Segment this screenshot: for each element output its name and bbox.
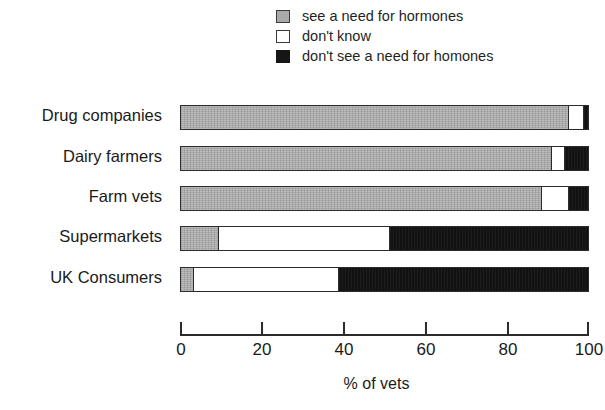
- bar-dairy-farmers: [180, 146, 589, 171]
- category-label-supermarkets: Supermarkets: [0, 227, 162, 245]
- legend-label-dont-see-a-need: don't see a need for homones: [302, 49, 493, 64]
- axis-tick-40: [343, 322, 345, 335]
- bar-supermarkets: [180, 226, 589, 251]
- category-axis-labels: Drug companies Dairy farmers Farm vets S…: [0, 100, 170, 300]
- axis-tick-60: [425, 322, 427, 335]
- axis-tick-80: [507, 322, 509, 335]
- bar-segment-see-a-need: [181, 187, 541, 210]
- stacked-bar-chart: see a need for hormones don't know don't…: [0, 0, 605, 410]
- axis-tick-label-80: 80: [499, 340, 518, 360]
- category-label-dairy-farmers: Dairy farmers: [0, 147, 162, 165]
- bar-drug-companies: [180, 105, 589, 130]
- category-label-uk-consumers: UK Consumers: [0, 268, 162, 286]
- axis-tick-20: [261, 322, 263, 335]
- category-label-drug-companies: Drug companies: [0, 106, 162, 124]
- legend-label-see-a-need: see a need for hormones: [302, 9, 463, 24]
- axis-tick-100: [587, 322, 589, 335]
- bar-segment-dont-see-a-need: [583, 106, 588, 129]
- axis-tick-label-20: 20: [253, 340, 272, 360]
- bar-segment-see-a-need: [181, 147, 551, 170]
- legend-item-dont-see-a-need: don't see a need for homones: [276, 46, 596, 66]
- bar-segment-dont-see-a-need: [564, 147, 588, 170]
- bar-segment-see-a-need: [181, 106, 568, 129]
- axis-tick-0: [180, 322, 182, 335]
- bar-segment-see-a-need: [181, 268, 193, 291]
- axis-tick-label-0: 0: [176, 340, 185, 360]
- legend-swatch-gray-icon: [276, 10, 290, 23]
- axis-tick-label-60: 60: [417, 340, 436, 360]
- value-axis-title-text: % of vets: [344, 375, 410, 392]
- value-axis: [180, 322, 589, 336]
- category-label-farm-vets: Farm vets: [0, 187, 162, 205]
- axis-line: [180, 334, 589, 336]
- bar-segment-dont-know: [551, 147, 563, 170]
- legend-label-dont-know: don't know: [302, 29, 371, 44]
- axis-tick-label-100: 100: [575, 340, 603, 360]
- bar-farm-vets: [180, 186, 589, 211]
- legend-item-see-a-need: see a need for hormones: [276, 6, 596, 26]
- value-axis-tick-labels: 0 20 40 60 80 100: [0, 340, 605, 366]
- chart-legend: see a need for hormones don't know don't…: [276, 6, 596, 66]
- axis-tick-label-40: 40: [335, 340, 354, 360]
- bar-uk-consumers: [180, 267, 589, 292]
- bar-segment-dont-know: [193, 268, 337, 291]
- legend-swatch-white-icon: [276, 30, 290, 43]
- plot-area: [180, 100, 589, 300]
- bar-segment-dont-see-a-need: [338, 268, 588, 291]
- bar-segment-dont-see-a-need: [389, 227, 588, 250]
- value-axis-title: % of vets: [0, 375, 605, 393]
- bar-segment-dont-see-a-need: [568, 187, 588, 210]
- bar-segment-dont-know: [218, 227, 389, 250]
- legend-item-dont-know: don't know: [276, 26, 596, 46]
- legend-swatch-black-icon: [276, 50, 290, 63]
- bar-segment-dont-know: [541, 187, 567, 210]
- bar-segment-see-a-need: [181, 227, 218, 250]
- bar-segment-dont-know: [568, 106, 583, 129]
